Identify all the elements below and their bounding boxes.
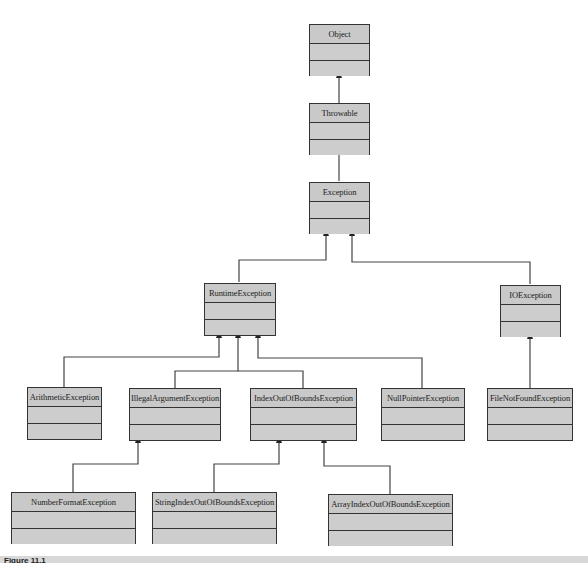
- operations-compartment: [310, 61, 369, 76]
- class-array-index-out-of-bounds-exception: ArrayIndexOutOfBoundsException: [328, 494, 453, 546]
- attributes-compartment: [153, 512, 276, 529]
- edge-illegalarg-runtime: [175, 337, 238, 388]
- class-name: Exception: [310, 183, 369, 202]
- attributes-compartment: [12, 512, 135, 529]
- attributes-compartment: [310, 123, 369, 140]
- class-index-out-of-bounds-exception: IndexOutOfBoundsException: [250, 388, 357, 441]
- class-name: NumberFormatException: [12, 493, 135, 512]
- edge-runtime-exception: [239, 235, 326, 282]
- class-number-format-exception: NumberFormatException: [11, 492, 136, 544]
- attributes-compartment: [501, 305, 560, 322]
- class-name: IOException: [501, 286, 560, 305]
- operations-compartment: [12, 529, 135, 544]
- class-arithmetic-exception: ArithmeticException: [27, 387, 102, 440]
- inheritance-edges: [0, 0, 588, 563]
- attributes-compartment: [205, 303, 275, 320]
- class-name: ArrayIndexOutOfBoundsException: [329, 495, 452, 514]
- operations-compartment: [310, 140, 369, 155]
- operations-compartment: [329, 531, 452, 546]
- edge-nullpointer-runtime: [258, 337, 422, 388]
- attributes-compartment: [251, 408, 356, 425]
- operations-compartment: [130, 425, 220, 440]
- class-name: IndexOutOfBoundsException: [251, 389, 356, 408]
- class-name: Throwable: [310, 104, 369, 123]
- class-name: FileNotFoundException: [488, 389, 572, 408]
- operations-compartment: [382, 425, 464, 440]
- class-exception: Exception: [309, 182, 370, 234]
- attributes-compartment: [488, 408, 572, 425]
- edge-indexoob-runtime: [238, 371, 303, 388]
- class-runtime-exception: RuntimeException: [204, 283, 276, 336]
- operations-compartment: [205, 320, 275, 335]
- class-diagram: Object Throwable Exception RuntimeExcept…: [0, 0, 588, 563]
- operations-compartment: [310, 219, 369, 234]
- operations-compartment: [251, 425, 356, 440]
- class-name: IllegalArgumentException: [130, 389, 220, 408]
- class-throwable: Throwable: [309, 103, 370, 155]
- edge-numberformat-illegalarg: [73, 442, 138, 492]
- operations-compartment: [28, 424, 101, 439]
- attributes-compartment: [329, 514, 452, 531]
- operations-compartment: [501, 322, 560, 337]
- class-illegal-argument-exception: IllegalArgumentException: [129, 388, 221, 441]
- attributes-compartment: [382, 408, 464, 425]
- class-name: NullPointerException: [382, 389, 464, 408]
- edge-arrayindex-indexoob: [324, 442, 390, 494]
- class-string-index-out-of-bounds-exception: StringIndexOutOfBoundsException: [152, 492, 277, 544]
- operations-compartment: [488, 425, 572, 440]
- edge-stringindex-indexoob: [214, 442, 279, 492]
- figure-caption: Figure 11.1: [4, 555, 46, 563]
- caption-bar: [0, 556, 588, 563]
- class-name: StringIndexOutOfBoundsException: [153, 493, 276, 512]
- edge-arithmetic-runtime: [64, 337, 219, 387]
- class-name: RuntimeException: [205, 284, 275, 303]
- class-io-exception: IOException: [500, 285, 561, 337]
- operations-compartment: [153, 529, 276, 544]
- class-name: ArithmeticException: [28, 388, 101, 407]
- attributes-compartment: [28, 407, 101, 424]
- attributes-compartment: [310, 44, 369, 61]
- attributes-compartment: [310, 202, 369, 219]
- class-name: Object: [310, 25, 369, 44]
- attributes-compartment: [130, 408, 220, 425]
- class-null-pointer-exception: NullPointerException: [381, 388, 465, 441]
- edge-io-exception: [352, 235, 530, 284]
- class-object: Object: [309, 24, 370, 76]
- class-file-not-found-exception: FileNotFoundException: [487, 388, 573, 441]
